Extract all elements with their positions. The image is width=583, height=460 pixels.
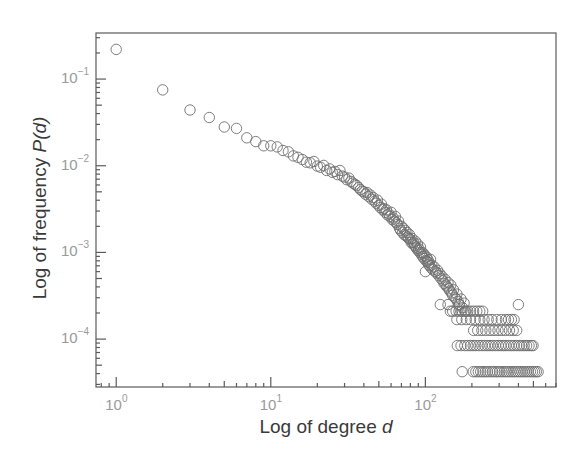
data-point: [111, 44, 121, 54]
data-point: [204, 112, 214, 122]
data-point: [457, 367, 467, 377]
y-tick-label: 10−1: [61, 69, 89, 86]
data-point: [231, 123, 241, 133]
data-point: [506, 314, 516, 324]
data-point: [219, 122, 229, 132]
data-point: [158, 85, 168, 95]
data-points: [111, 44, 543, 377]
y-axis-label-text: Log of frequency: [29, 153, 50, 300]
data-point: [513, 299, 523, 309]
y-tick-label: 10−3: [61, 242, 89, 259]
x-tick-label: 100: [105, 396, 127, 413]
data-point: [309, 156, 319, 166]
x-axis-label-text: Log of degree: [259, 416, 382, 437]
data-point: [185, 105, 195, 115]
y-axis-label: Log of frequency P(d): [29, 117, 51, 300]
x-axis-label: Log of degree d: [259, 416, 392, 438]
data-point: [251, 136, 261, 146]
x-tick-label: 102: [414, 396, 436, 413]
y-axis-label-var: P(d): [29, 117, 50, 153]
data-point: [272, 142, 282, 152]
plot-frame: [96, 33, 556, 387]
y-tick-label: 10−2: [61, 156, 89, 173]
x-tick-label: 101: [260, 396, 282, 413]
x-axis-label-var: d: [382, 416, 393, 437]
y-tick-label: 10−4: [61, 329, 89, 346]
